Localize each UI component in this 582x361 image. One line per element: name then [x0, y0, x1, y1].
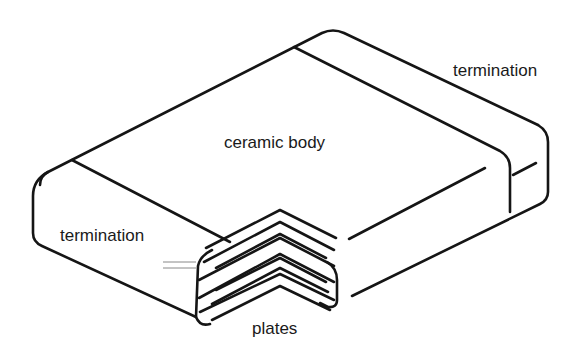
label-plates: plates	[252, 320, 297, 337]
label-ceramic-body: ceramic body	[224, 134, 325, 151]
right-termination-mark	[513, 163, 536, 175]
capacitor-drawing	[0, 0, 582, 361]
label-termination-left: termination	[60, 227, 144, 244]
plates-stack	[199, 210, 336, 320]
right-end-outline	[352, 125, 548, 296]
label-termination-right: termination	[453, 62, 537, 79]
top-face-back-edge	[40, 31, 538, 186]
capacitor-diagram: termination ceramic body termination pla…	[0, 0, 582, 361]
front-face-line	[349, 168, 485, 239]
